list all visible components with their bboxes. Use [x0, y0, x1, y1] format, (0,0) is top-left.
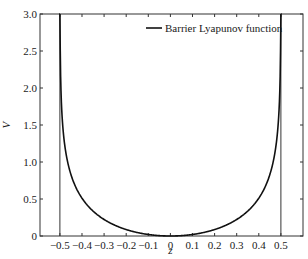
barrier-lyapunov-chart: −0.5−0.4−0.3−0.2−0.100.10.20.30.40.5 00.…: [0, 0, 308, 259]
x-tick-label: −0.4: [72, 239, 92, 251]
y-tick-label: 2.5: [23, 45, 37, 57]
x-axis-ticks: −0.5−0.4−0.3−0.2−0.100.10.20.30.40.5: [50, 14, 288, 251]
barrier-lines: [60, 14, 281, 236]
plot-frame: [40, 14, 303, 236]
x-tick-label: −0.1: [138, 239, 158, 251]
x-tick-label: −0.5: [50, 239, 70, 251]
legend-label: Barrier Lyapunov function: [165, 22, 283, 34]
legend: Barrier Lyapunov function: [146, 22, 283, 34]
y-tick-label: 3.0: [23, 8, 37, 20]
x-tick-label: 0.2: [208, 239, 222, 251]
series-group: [60, 14, 281, 236]
y-tick-label: 1.0: [23, 156, 37, 168]
y-tick-label: 2.0: [23, 82, 37, 94]
y-tick-label: 0: [32, 230, 38, 242]
x-axis-label: z: [167, 244, 173, 256]
series-line-barrier-lyapunov: [60, 14, 281, 236]
y-tick-label: 1.5: [23, 119, 37, 131]
x-tick-label: 0.1: [186, 239, 200, 251]
x-tick-label: −0.3: [94, 239, 114, 251]
y-axis-label: V: [0, 120, 12, 128]
x-tick-label: 0.4: [252, 239, 266, 251]
y-tick-label: 0.5: [23, 193, 37, 205]
x-tick-label: 0.5: [274, 239, 288, 251]
y-axis-ticks: 00.51.01.52.02.53.0: [23, 8, 303, 242]
x-tick-label: 0.3: [230, 239, 244, 251]
x-tick-label: −0.2: [116, 239, 136, 251]
